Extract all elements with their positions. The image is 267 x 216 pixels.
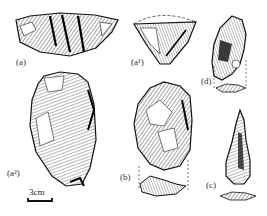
artifact-d [212, 16, 246, 92]
artifact-c [220, 110, 256, 200]
label-a1: (a¹) [131, 57, 144, 67]
label-b: (b) [120, 172, 131, 182]
label-a2: (a²) [7, 168, 20, 178]
artifact-b [134, 82, 192, 196]
label-c: (c) [206, 180, 216, 190]
stone-tools-illustration: (a) (a¹) (a²) (b) (c) (d) 3cm [0, 0, 267, 216]
scale-bar [28, 198, 52, 201]
scale-bar-label: 3cm [29, 187, 45, 197]
label-a: (a) [16, 57, 26, 67]
artifact-a2 [30, 72, 96, 186]
label-d: (d) [201, 76, 212, 86]
artifact-a [16, 13, 118, 56]
